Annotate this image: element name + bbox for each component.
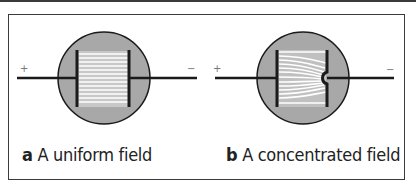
panel-b-concentrated-field-diagram: + − xyxy=(213,32,394,124)
positive-sign-a: + xyxy=(20,63,28,74)
caption-a-text: A uniform field xyxy=(37,144,152,165)
caption-b: b A concentrated field xyxy=(226,144,400,165)
caption-a: a A uniform field xyxy=(22,144,152,165)
negative-sign-a: − xyxy=(187,63,195,74)
panel-a-uniform-field-diagram: + − xyxy=(17,32,197,124)
caption-b-letter: b xyxy=(226,144,237,165)
caption-a-letter: a xyxy=(22,144,33,165)
caption-b-text: A concentrated field xyxy=(242,144,400,165)
positive-sign-b: + xyxy=(213,63,221,74)
negative-sign-b: − xyxy=(386,64,394,75)
